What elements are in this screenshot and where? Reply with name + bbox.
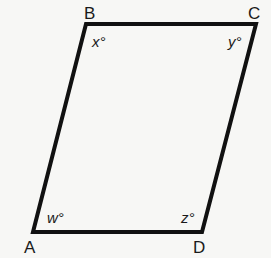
vertex-label-a: A: [24, 238, 36, 257]
parallelogram-diagram: A B C D w° x° y° z°: [0, 0, 271, 258]
angle-label-z: z°: [180, 209, 195, 226]
angle-label-x: x°: [91, 33, 106, 50]
angle-label-w: w°: [47, 209, 64, 226]
angle-label-y: y°: [227, 33, 242, 50]
vertex-label-c: C: [248, 4, 260, 23]
vertex-label-b: B: [84, 4, 95, 23]
diagram-svg: A B C D w° x° y° z°: [0, 0, 271, 258]
parallelogram-shape: [33, 24, 256, 232]
vertex-label-d: D: [193, 238, 205, 257]
